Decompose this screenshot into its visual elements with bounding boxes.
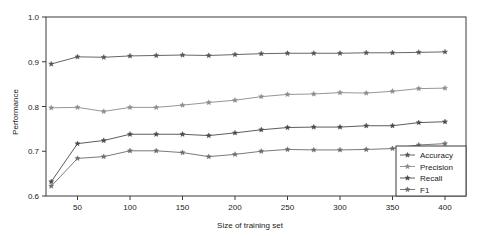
x-tick-label: 250 <box>281 203 295 212</box>
y-tick-label: 0.7 <box>28 147 40 156</box>
x-tick-label: 150 <box>176 203 190 212</box>
x-tick-label: 100 <box>123 203 137 212</box>
x-tick-label: 350 <box>386 203 400 212</box>
legend-label-recall: Recall <box>420 174 442 183</box>
x-tick-label: 200 <box>228 203 242 212</box>
y-tick-label: 0.6 <box>28 192 40 201</box>
x-tick-label: 50 <box>73 203 82 212</box>
legend-label-f1: F1 <box>420 186 430 195</box>
x-tick-label: 400 <box>438 203 452 212</box>
chart-figure: 0.60.70.80.91.0 50100150200250300350400 … <box>0 0 487 236</box>
y-tick-label: 1.0 <box>28 13 40 22</box>
y-axis-title: Performance <box>11 89 20 135</box>
chart-legend: AccuracyPrecisionRecallF1 <box>396 146 466 196</box>
legend-label-precision: Precision <box>420 163 453 172</box>
y-tick-label: 0.9 <box>28 58 40 67</box>
legend-label-accuracy: Accuracy <box>420 151 453 160</box>
x-axis-title: Size of training set <box>217 221 284 230</box>
y-tick-label: 0.8 <box>28 103 40 112</box>
x-tick-label: 300 <box>333 203 347 212</box>
chart-background <box>0 0 487 236</box>
